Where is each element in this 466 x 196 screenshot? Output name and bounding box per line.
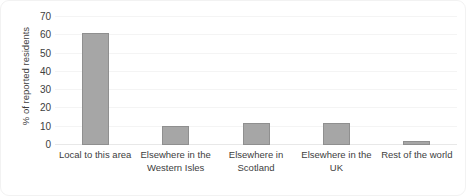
x-tick-label: Elsewhere in the Western Isles bbox=[135, 149, 215, 193]
y-tick-label-40: 40 bbox=[29, 67, 51, 77]
y-tick-label-70: 70 bbox=[29, 12, 51, 22]
bar-slot bbox=[135, 17, 215, 145]
bar[interactable] bbox=[403, 141, 430, 145]
y-tick-label-30: 30 bbox=[29, 85, 51, 95]
x-tick-label: Elsewhere in Scotland bbox=[216, 149, 296, 193]
y-tick-label-50: 50 bbox=[29, 49, 51, 59]
y-tick-label-60: 60 bbox=[29, 30, 51, 40]
plot-area bbox=[55, 17, 457, 145]
bar-slot bbox=[296, 17, 376, 145]
bar-slot bbox=[377, 17, 457, 145]
bar[interactable] bbox=[82, 33, 109, 145]
bar-slot bbox=[55, 17, 135, 145]
bar[interactable] bbox=[243, 123, 270, 145]
x-tick-label: Local to this area bbox=[55, 149, 135, 193]
bar-chart-figure: % of reported residents 010203040506070 … bbox=[0, 0, 466, 196]
bars-container bbox=[55, 17, 457, 145]
x-axis-tick-labels: Local to this areaElsewhere in the Weste… bbox=[55, 149, 457, 193]
bar[interactable] bbox=[323, 123, 350, 145]
y-tick-label-10: 10 bbox=[29, 122, 51, 132]
bar[interactable] bbox=[162, 126, 189, 145]
bar-slot bbox=[216, 17, 296, 145]
y-tick-label-20: 20 bbox=[29, 103, 51, 113]
x-tick-label: Elsewhere in the UK bbox=[296, 149, 376, 193]
x-tick-label: Rest of the world bbox=[377, 149, 457, 193]
y-axis-tick-labels: 010203040506070 bbox=[29, 17, 51, 145]
y-tick-label-0: 0 bbox=[29, 140, 51, 150]
